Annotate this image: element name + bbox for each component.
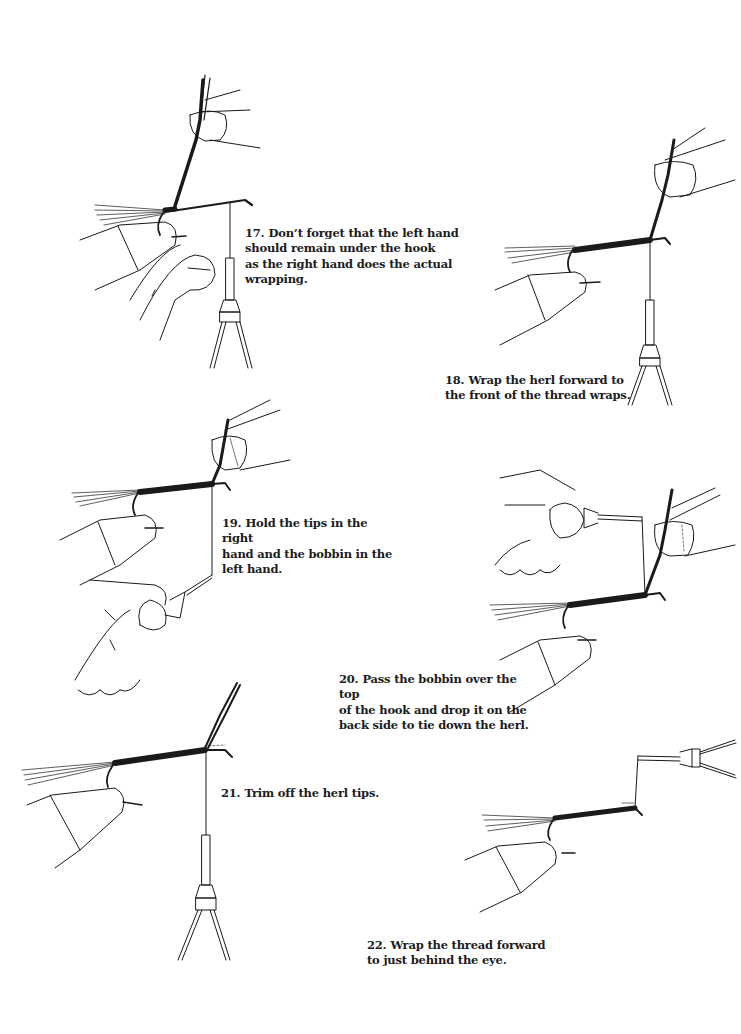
step-number: 20. bbox=[339, 672, 358, 686]
illustration-step-22 bbox=[465, 740, 736, 912]
step-text: Hold the tips in the right hand and the … bbox=[222, 516, 392, 577]
step-text: Pass the bobbin over the top of the hook… bbox=[339, 672, 529, 733]
step-number: 19. bbox=[222, 516, 241, 530]
step-text: Don’t forget that the left hand should r… bbox=[245, 226, 459, 287]
step-17-caption: 17.Don’t forget that the left hand shoul… bbox=[245, 210, 485, 288]
step-number: 21. bbox=[221, 786, 240, 800]
step-18-caption: 18.Wrap the herl forward to the front of… bbox=[445, 357, 655, 404]
step-number: 22. bbox=[367, 938, 386, 952]
step-text: Trim off the herl tips. bbox=[244, 786, 379, 800]
step-19-caption: 19.Hold the tips in the right hand and t… bbox=[222, 500, 402, 578]
step-20-caption: 20.Pass the bobbin over the top of the h… bbox=[339, 656, 539, 734]
step-number: 17. bbox=[245, 226, 264, 240]
step-21-caption: 21.Trim off the herl tips. bbox=[221, 770, 381, 801]
illustration-step-21 bbox=[22, 683, 240, 960]
illustration-step-17 bbox=[80, 75, 260, 368]
instruction-page: 17.Don’t forget that the left hand shoul… bbox=[0, 0, 741, 1034]
step-22-caption: 22.Wrap the thread forward to just behin… bbox=[367, 922, 547, 969]
step-number: 18. bbox=[445, 373, 464, 387]
step-text: Wrap the herl forward to the front of th… bbox=[445, 373, 630, 403]
step-text: Wrap the thread forward to just behind t… bbox=[367, 938, 545, 968]
